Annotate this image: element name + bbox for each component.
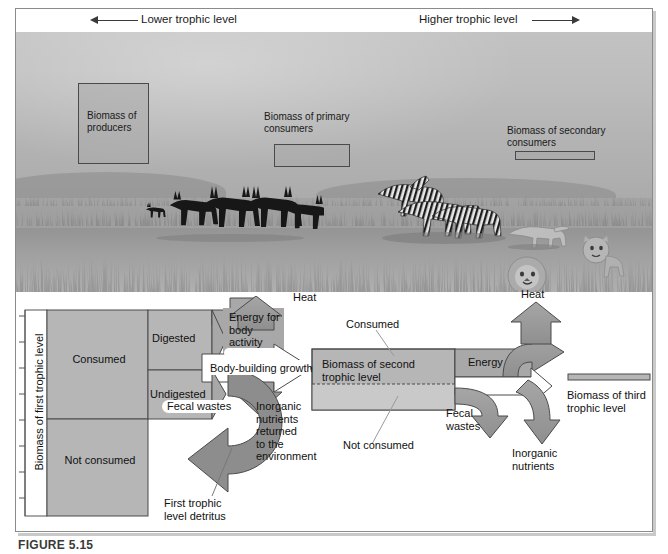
- savanna-illustration: Biomass of producers Biomass of primary …: [16, 32, 652, 292]
- label-heat-2: Heat: [521, 288, 544, 301]
- figure-caption: FIGURE 5.15: [18, 538, 93, 552]
- label-not-consumed-2: Not consumed: [343, 439, 414, 452]
- block-not-consumed: [47, 419, 148, 516]
- label-not-consumed-1: Not consumed: [60, 454, 140, 467]
- biomass-box-secondary-consumers: [515, 151, 595, 160]
- biomass-box-primary-consumers: [274, 144, 350, 167]
- biomass-label-producers: Biomass of producers: [87, 110, 149, 134]
- axis-label-first-trophic: Biomass of first trophic level: [33, 332, 45, 472]
- flow-graphics: [16, 296, 652, 530]
- lion: [501, 254, 557, 292]
- label-fecal-wastes-1: Fecal wastes: [167, 400, 231, 413]
- lioness: [572, 232, 628, 278]
- arrow-right-icon: [572, 16, 580, 24]
- cheetah: [502, 218, 572, 250]
- arrow-left-shaft: [96, 20, 138, 21]
- label-digested: Digested: [152, 332, 195, 345]
- label-heat-1: Heat: [293, 291, 316, 304]
- zebra-herd: [372, 170, 522, 246]
- label-undigested: Undigested: [150, 388, 206, 401]
- label-first-trophic-detritus: First trophic level detritus: [164, 497, 254, 522]
- biomass-label-primary-consumers: Biomass of primary consumers: [264, 111, 368, 135]
- energy-label-plate: [224, 348, 282, 358]
- higher-trophic-label: Higher trophic level: [419, 13, 517, 25]
- label-energy-2: Energy: [468, 356, 503, 369]
- arrow-right-shaft: [532, 20, 574, 21]
- frame-shadow: [18, 533, 656, 536]
- figure-root: Lower trophic level Higher trophic level: [0, 0, 668, 554]
- block-third-trophic: [568, 374, 650, 380]
- label-body-building-growth: Body-building growth: [210, 362, 313, 375]
- label-energy-body-activity: Energy for body activity: [229, 311, 289, 349]
- lower-trophic-label: Lower trophic level: [141, 13, 237, 25]
- biomass-label-secondary-consumers: Biomass of secondary consumers: [507, 125, 619, 149]
- label-second-trophic-level: Biomass of second trophic level: [322, 358, 452, 383]
- label-consumed-1: Consumed: [64, 353, 134, 366]
- heat-arrow-2-stem: [511, 302, 561, 344]
- antelope-herd: [134, 182, 324, 242]
- label-inorganic-nutrients-2: Inorganic nutrients: [512, 447, 576, 472]
- inorganic-arrow-2: [516, 380, 560, 444]
- label-inorganic-nutrients-1: Inorganic nutrients returned to the envi…: [256, 400, 326, 463]
- label-consumed-2: Consumed: [346, 318, 399, 331]
- frame-shadow-right: [653, 11, 656, 536]
- label-fecal-wastes-2: Fecal wastes: [446, 407, 488, 432]
- second-not-consumed: [312, 384, 455, 410]
- trophic-direction-header: Lower trophic level Higher trophic level: [16, 9, 652, 33]
- label-third-trophic-level: Biomass of third trophic level: [567, 389, 657, 414]
- energy-flow-diagram: Biomass of first trophic level Consumed …: [16, 296, 652, 530]
